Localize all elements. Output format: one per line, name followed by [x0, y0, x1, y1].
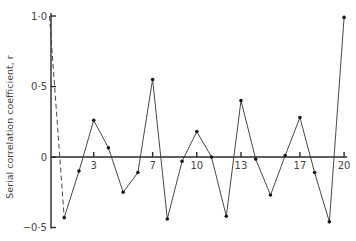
data-point	[342, 16, 346, 20]
x-tick-label: 17	[294, 160, 307, 171]
data-point	[328, 220, 332, 224]
data-point	[136, 171, 140, 175]
correlation-line	[64, 17, 344, 222]
serial-correlation-chart: 1·00·50−0·5 3710131720 Serial correlatio…	[0, 0, 356, 241]
y-tick-label: 0	[41, 152, 47, 163]
data-point	[151, 78, 155, 82]
data-point	[254, 157, 258, 161]
y-axis: 1·00·50−0·5	[23, 11, 56, 234]
y-tick-label: −0·5	[23, 222, 47, 233]
x-tick-label: 7	[149, 160, 155, 171]
x-tick-label: 10	[190, 160, 203, 171]
data-point	[107, 146, 111, 150]
data-point	[121, 190, 125, 194]
data-point	[313, 171, 317, 175]
data-series	[50, 16, 346, 224]
data-point	[210, 155, 214, 159]
data-point	[195, 130, 199, 134]
data-point	[77, 169, 81, 173]
data-point	[283, 154, 287, 158]
y-tick-label: 1·0	[31, 11, 47, 22]
data-point	[166, 217, 170, 221]
data-point	[239, 99, 243, 103]
x-tick-label: 3	[91, 160, 97, 171]
x-tick-label: 13	[235, 160, 248, 171]
data-point	[92, 119, 96, 123]
x-tick-label: 20	[338, 160, 351, 171]
dashed-connector-line	[50, 16, 65, 218]
y-axis-title: Serial correlation coefficient, r	[4, 55, 15, 198]
x-axis: 3710131720	[51, 152, 350, 171]
y-tick-label: 0·5	[31, 81, 47, 92]
data-point	[224, 214, 228, 218]
data-point	[269, 193, 273, 197]
data-point	[298, 116, 302, 120]
data-point	[180, 159, 184, 163]
